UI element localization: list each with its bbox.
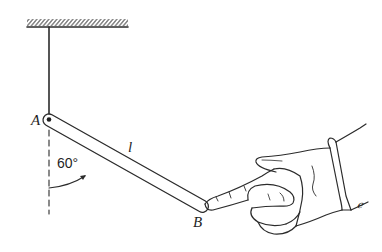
rod-pendulum-diagram: A B l 60° ℯ — [0, 0, 382, 252]
label-rod-length: l — [128, 139, 132, 155]
label-point-b: B — [193, 214, 202, 230]
angle-arc — [49, 175, 86, 188]
label-angle: 60° — [57, 155, 78, 171]
hand-illustration — [205, 124, 368, 234]
cuff-mark: ℯ — [357, 199, 364, 210]
label-point-a: A — [30, 112, 41, 128]
pivot-point-a — [47, 117, 52, 122]
ceiling-support — [27, 19, 128, 27]
